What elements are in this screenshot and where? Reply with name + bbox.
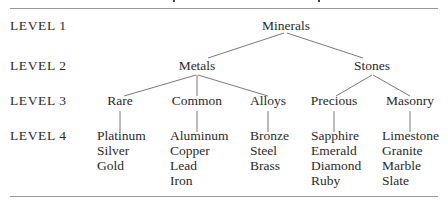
leaf-item: Sapphire	[311, 128, 361, 143]
leaf-item: Slate	[382, 173, 439, 188]
node-stones: Stones	[354, 58, 390, 73]
leaf-item: Granite	[382, 143, 439, 158]
leaf-item: Gold	[97, 158, 146, 173]
leaf-item: Silver	[97, 143, 146, 158]
leaf-item: Copper	[170, 143, 229, 158]
list-precious: Sapphire Emerald Diamond Ruby	[311, 128, 361, 188]
leaf-item: Marble	[382, 158, 439, 173]
node-rare: Rare	[107, 93, 132, 108]
leaf-item: Aluminum	[170, 128, 229, 143]
leaf-item: Ruby	[311, 173, 361, 188]
node-minerals: Minerals	[262, 18, 310, 33]
leaf-item: Emerald	[311, 143, 361, 158]
bottom-rule	[10, 196, 438, 197]
edge-minerals-stones	[287, 33, 363, 58]
list-masonry: Limestone Granite Marble Slate	[382, 128, 439, 188]
leaf-item: Lead	[170, 158, 229, 173]
node-common: Common	[172, 93, 222, 108]
leaf-item: Diamond	[311, 158, 361, 173]
leaf-item: Bronze	[250, 128, 289, 143]
list-common: Aluminum Copper Lead Iron	[170, 128, 229, 188]
leaf-item: Limestone	[382, 128, 439, 143]
node-masonry: Masonry	[386, 93, 434, 108]
node-alloys: Alloys	[250, 93, 286, 108]
leaf-item: Brass	[250, 158, 289, 173]
leaf-item: Steel	[250, 143, 289, 158]
edge-minerals-metals	[208, 33, 284, 58]
node-precious: Precious	[311, 93, 358, 108]
node-metals: Metals	[179, 58, 216, 73]
list-alloys: Bronze Steel Brass	[250, 128, 289, 173]
leaf-item: Platinum	[97, 128, 146, 143]
leaf-item: Iron	[170, 173, 229, 188]
list-rare: Platinum Silver Gold	[97, 128, 146, 173]
